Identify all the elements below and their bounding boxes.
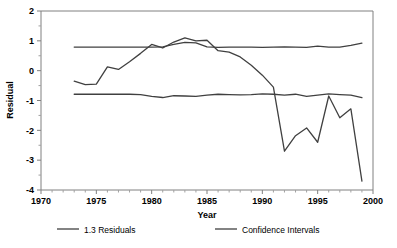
y-tick-label: -1	[26, 96, 34, 106]
residual-line-chart: 210-1-2-3-4 1970197519801985199019952000…	[0, 0, 397, 248]
x-tick-label: 1970	[31, 196, 51, 206]
y-tick-label: -4	[26, 185, 34, 195]
y-axis-tick-labels: 210-1-2-3-4	[26, 6, 34, 195]
y-tick-label: -3	[26, 155, 34, 165]
y-axis-title: Residual	[5, 81, 15, 119]
x-axis-ticks	[41, 190, 373, 194]
y-tick-label: 1	[29, 36, 34, 46]
y-tick-label: 2	[29, 6, 34, 16]
chart-legend: 1.3 Residuals Confidence Intervals	[57, 225, 320, 235]
plot-area-background	[41, 11, 373, 190]
chart-figure: 210-1-2-3-4 1970197519801985199019952000…	[0, 0, 397, 248]
x-tick-label: 1995	[308, 196, 328, 206]
x-tick-label: 1980	[142, 196, 162, 206]
y-tick-label: -2	[26, 126, 34, 136]
x-tick-label: 2000	[363, 196, 383, 206]
y-tick-label: 0	[29, 66, 34, 76]
legend-label-residuals: 1.3 Residuals	[84, 225, 136, 235]
x-tick-label: 1990	[252, 196, 272, 206]
x-axis-tick-labels: 1970197519801985199019952000	[31, 196, 383, 206]
legend-label-confidence-intervals: Confidence Intervals	[242, 225, 320, 235]
y-axis-ticks	[37, 11, 41, 190]
x-tick-label: 1975	[86, 196, 106, 206]
x-axis-title: Year	[197, 210, 217, 220]
x-tick-label: 1985	[197, 196, 217, 206]
